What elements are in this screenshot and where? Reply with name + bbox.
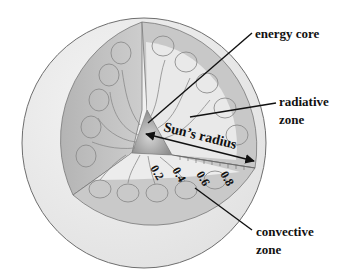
radiative-zone-label-line1: radiative (279, 94, 329, 109)
convective-zone-label-line2: zone (256, 242, 282, 257)
energy-core-label: energy core (255, 26, 320, 41)
convective-zone-label-line1: convective (256, 224, 314, 239)
sun-interior-diagram: 0.2 0.4 0.6 0.8 Sun’s radius energy core… (0, 0, 350, 279)
radiative-zone-label-line2: zone (279, 112, 305, 127)
